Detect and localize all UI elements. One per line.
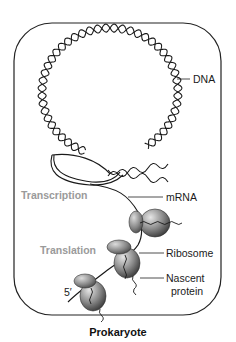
figure-caption: Prokaryote [0, 326, 236, 338]
translation-label: Translation [40, 244, 96, 256]
five-prime-label: 5′ [64, 286, 72, 298]
dna-label: DNA [193, 73, 215, 85]
mrna-strand [90, 184, 138, 212]
dna-helix [38, 24, 182, 154]
mrna-label: mRNA [166, 191, 197, 203]
ribosome-label: Ribosome [166, 247, 213, 259]
transcription-label: Transcription [21, 189, 88, 201]
nascent-protein-label-line1: Nascent [166, 272, 205, 284]
ribosome-1 [129, 209, 182, 237]
transcription-bubble [51, 154, 138, 212]
nascent-protein-label-line2: protein [171, 285, 203, 297]
